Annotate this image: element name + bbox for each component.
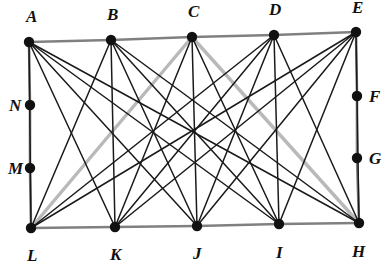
vertex-h xyxy=(354,218,364,228)
vertex-label-c: C xyxy=(188,2,200,21)
vertex-i xyxy=(274,219,284,229)
perimeter-edge-j-k xyxy=(115,226,197,227)
vertex-e xyxy=(351,27,361,37)
vertex-label-j: J xyxy=(192,244,202,263)
figure-canvas: ABCDEFGHIJKLMN xyxy=(0,0,383,266)
vertex-b xyxy=(106,35,116,45)
vertex-label-k: K xyxy=(109,245,123,264)
vertex-a xyxy=(24,37,34,47)
vertex-label-a: A xyxy=(25,7,37,26)
vertex-label-m: M xyxy=(7,159,24,178)
vertex-label-h: H xyxy=(351,242,366,261)
vertex-label-f: F xyxy=(368,87,381,106)
vertex-label-n: N xyxy=(8,96,22,115)
vertex-d xyxy=(269,30,279,40)
geometry-figure: ABCDEFGHIJKLMN xyxy=(0,0,383,266)
vertex-j xyxy=(192,221,202,231)
perimeter-edge-h-i xyxy=(279,223,359,224)
vertex-l xyxy=(26,223,36,233)
perimeter-edge-k-l xyxy=(31,227,115,228)
vertex-label-b: B xyxy=(106,5,118,24)
vertex-label-l: L xyxy=(26,246,37,265)
vertex-n xyxy=(25,100,35,110)
vertex-label-g: G xyxy=(369,149,382,168)
vertex-m xyxy=(25,163,35,173)
vertex-label-d: D xyxy=(268,0,281,19)
vertex-c xyxy=(187,32,197,42)
vertex-g xyxy=(352,153,362,163)
vertex-label-e: E xyxy=(351,0,363,17)
vertex-k xyxy=(110,222,120,232)
vertex-f xyxy=(352,91,362,101)
